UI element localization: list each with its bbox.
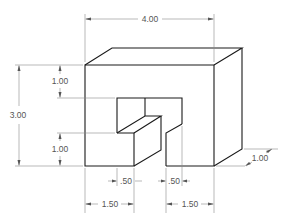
dim-label-overall-height: 3.00 [10,110,27,120]
dim-depth: 1.00 [216,149,278,166]
dim-overall-width: 4.00 [85,14,214,62]
dim-label-step-height: 1.00 [52,144,69,154]
step-front-face [117,133,134,166]
dim-right-offset: 1.50 [166,199,214,209]
part-geometry [85,48,242,166]
dim-left-gap: .50 [108,176,142,186]
dim-label-depth: 1.00 [252,153,269,163]
dim-step-height: 1.00 [52,133,115,166]
dim-label-left-gap: .50 [120,176,132,186]
slot-right-edge [166,124,182,166]
dim-overall-height: 3.00 [10,65,83,166]
step-top-face [117,116,161,133]
dim-label-right-gap: .50 [168,176,180,186]
top-face [85,48,242,65]
step-side-face [134,116,161,166]
dim-label-overall-width: 4.00 [142,14,159,24]
dim-label-right-offset: 1.50 [182,199,199,209]
dim-right-gap: .50 [158,176,190,186]
drawing-canvas: 4.00 3.00 1.00 1.00 1.00 [0,0,285,219]
right-side-face [214,48,242,166]
dim-label-left-offset: 1.50 [102,199,119,209]
dim-label-top-wall: 1.00 [52,76,69,86]
dim-top-wall: 1.00 [52,65,115,98]
dim-left-offset: 1.50 [85,199,134,209]
